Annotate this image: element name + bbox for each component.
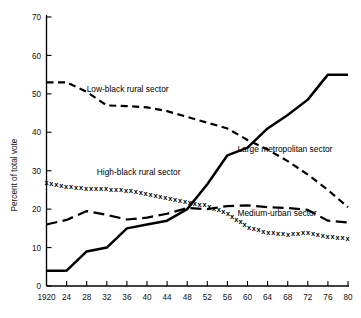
y-tick-label: 70 <box>32 13 42 22</box>
x-tick-label: 76 <box>323 293 333 302</box>
series-label-3: Large metropolitan sector <box>237 144 332 154</box>
y-tick-label: 10 <box>32 244 42 253</box>
series-plot-area: xxxxxxxxxxxxxxxxxxxxxxxxxxxxxxxxxxxxxxxx… <box>44 75 350 271</box>
x-tick-label: 32 <box>102 293 112 302</box>
y-tick-label: 50 <box>32 90 42 99</box>
y-axis-title-group: Percent of total vote <box>10 138 19 211</box>
series-label-2: Medium-urban sector <box>237 208 316 218</box>
election-vote-share-line-chart: Percent of total vote 010203040506070 19… <box>0 0 361 318</box>
y-tick-label: 30 <box>32 167 42 176</box>
x-marker: x <box>346 234 351 243</box>
x-tick-label: 36 <box>122 293 132 302</box>
x-tick-label: 40 <box>142 293 152 302</box>
series-annotations: Low-black rural sectorHigh-black rural s… <box>87 84 333 218</box>
x-tick-label: 72 <box>303 293 313 302</box>
y-tick-label: 0 <box>36 282 41 291</box>
x-tick-label: 68 <box>283 293 293 302</box>
y-axis: 010203040506070 <box>32 13 52 291</box>
series-label-0: Low-black rural sector <box>87 84 169 94</box>
x-tick-label: 56 <box>223 293 233 302</box>
x-tick-label: 64 <box>263 293 273 302</box>
x-tick-label: 48 <box>183 293 193 302</box>
y-tick-label: 40 <box>32 128 42 137</box>
y-axis-title: Percent of total vote <box>10 138 19 211</box>
x-tick-label: 52 <box>203 293 213 302</box>
x-axis: 1920242832364044485256606468727680 <box>37 281 353 302</box>
y-tick-label: 60 <box>32 52 42 61</box>
x-tick-label: 44 <box>163 293 173 302</box>
x-tick-label: 24 <box>62 293 72 302</box>
series-label-1: High-black rural sector <box>97 167 181 177</box>
y-tick-label: 20 <box>32 205 42 214</box>
x-tick-label: 80 <box>343 293 353 302</box>
x-tick-label: 60 <box>243 293 253 302</box>
x-tick-label: 28 <box>82 293 92 302</box>
chart-figure: Percent of total vote 010203040506070 19… <box>0 0 361 318</box>
x-tick-label: 1920 <box>37 293 56 302</box>
series-line-3 <box>47 75 349 271</box>
